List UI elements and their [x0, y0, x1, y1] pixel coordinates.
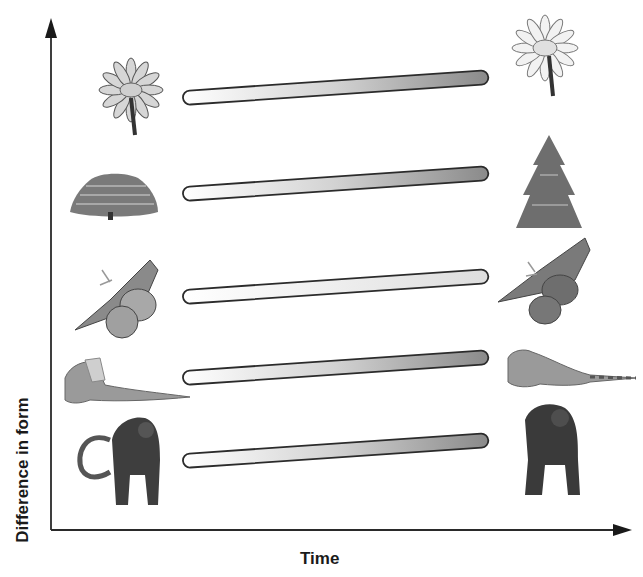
y-axis-label: Difference in form [8, 350, 38, 577]
y-axis-arrowhead-icon [45, 18, 57, 38]
x-axis-arrowhead-icon [613, 524, 632, 536]
iguana-icon [508, 350, 636, 387]
monkey-icon [80, 417, 160, 505]
axes [0, 0, 643, 577]
y-axis [45, 18, 57, 530]
x-axis [51, 524, 632, 536]
change-bar-moth [183, 269, 489, 304]
ape-icon [525, 404, 580, 495]
change-bar-primate [183, 433, 489, 468]
moth-icon [75, 260, 158, 338]
change-bar-daisy [183, 70, 489, 105]
moth-icon [498, 238, 590, 324]
x-axis-label: Time [300, 549, 339, 569]
conifer-tree-icon [516, 135, 582, 228]
broad-tree-icon [70, 174, 158, 220]
frilled-lizard-icon [65, 358, 190, 403]
change-bar-lizard [183, 350, 489, 385]
daisy-icon [99, 58, 163, 135]
daisy-icon [512, 15, 578, 96]
change-bar-tree [183, 166, 489, 201]
